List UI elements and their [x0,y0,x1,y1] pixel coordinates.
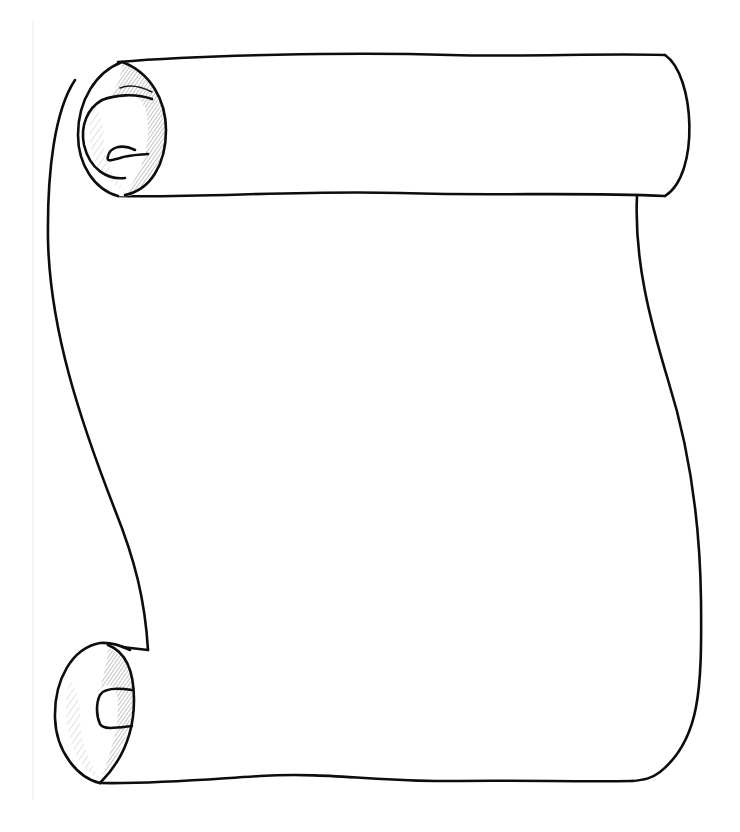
scroll-illustration [0,0,740,832]
